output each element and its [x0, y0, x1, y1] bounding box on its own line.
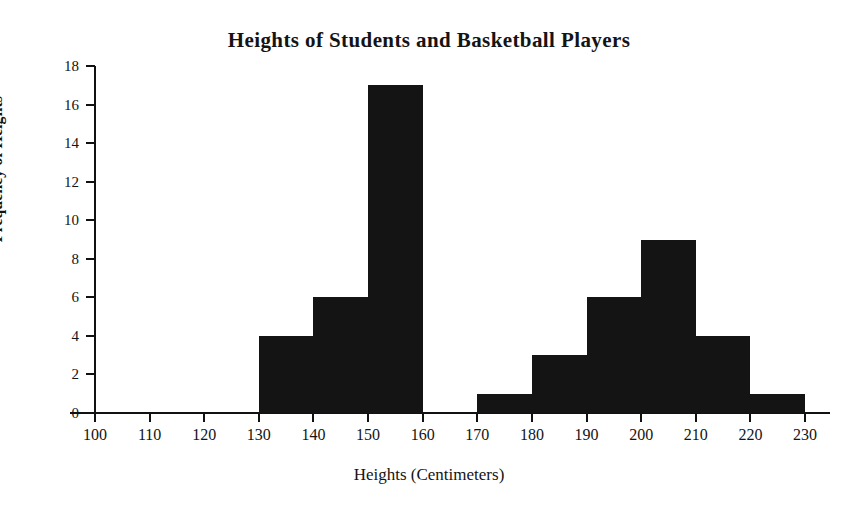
y-tick-mark — [86, 373, 95, 375]
x-tick-mark — [312, 413, 314, 422]
x-tick-label: 180 — [520, 426, 544, 444]
y-tick-label: 8 — [72, 250, 80, 267]
histogram-bar — [750, 394, 805, 413]
x-tick-label: 130 — [247, 426, 271, 444]
histogram-bar — [477, 394, 532, 413]
x-tick-mark — [94, 413, 96, 422]
histogram-bar — [641, 240, 696, 414]
y-tick-label: 6 — [72, 289, 80, 306]
y-tick-mark — [86, 142, 95, 144]
x-tick-mark — [476, 413, 478, 422]
histogram-figure: Heights of Students and Basketball Playe… — [0, 0, 858, 520]
x-tick-mark — [531, 413, 533, 422]
x-tick-mark — [749, 413, 751, 422]
y-tick-label: 4 — [72, 327, 80, 344]
x-tick-mark — [695, 413, 697, 422]
histogram-bar — [532, 355, 587, 413]
x-tick-label: 120 — [192, 426, 216, 444]
histogram-bar — [587, 297, 642, 413]
y-tick-mark — [86, 335, 95, 337]
y-tick-label: 18 — [64, 58, 79, 75]
y-tick-mark — [86, 296, 95, 298]
x-tick-mark — [586, 413, 588, 422]
x-tick-label: 230 — [793, 426, 817, 444]
x-tick-mark — [804, 413, 806, 422]
x-tick-mark — [422, 413, 424, 422]
x-tick-label: 100 — [83, 426, 107, 444]
histogram-bar — [259, 336, 314, 413]
y-tick-mark — [86, 104, 95, 106]
y-tick-label: 2 — [72, 366, 80, 383]
x-tick-mark — [367, 413, 369, 422]
x-tick-label: 170 — [465, 426, 489, 444]
x-tick-mark — [258, 413, 260, 422]
x-tick-mark — [640, 413, 642, 422]
x-tick-label: 220 — [738, 426, 762, 444]
y-axis-title: Frequency of Heights — [0, 96, 6, 242]
x-tick-label: 110 — [138, 426, 161, 444]
y-tick-label: 10 — [64, 212, 79, 229]
y-tick-label: 0 — [72, 405, 80, 422]
y-tick-mark — [86, 65, 95, 67]
x-tick-label: 210 — [684, 426, 708, 444]
histogram-bar — [313, 297, 368, 413]
page-title: Heights of Students and Basketball Playe… — [0, 28, 858, 53]
x-tick-mark — [149, 413, 151, 422]
histogram-bar — [696, 336, 751, 413]
y-tick-label: 14 — [64, 135, 79, 152]
y-tick-mark — [86, 181, 95, 183]
y-tick-label: 16 — [64, 96, 79, 113]
x-axis-title: Heights (Centimeters) — [0, 465, 858, 485]
x-tick-label: 190 — [575, 426, 599, 444]
x-tick-label: 160 — [411, 426, 435, 444]
y-tick-mark — [86, 258, 95, 260]
x-tick-mark — [203, 413, 205, 422]
x-tick-label: 140 — [301, 426, 325, 444]
x-tick-label: 200 — [629, 426, 653, 444]
y-tick-mark — [86, 219, 95, 221]
y-tick-label: 12 — [64, 173, 79, 190]
histogram-bar — [368, 85, 423, 413]
x-tick-label: 150 — [356, 426, 380, 444]
plot-area: 024681012141618 100110120130140150160170… — [95, 66, 805, 413]
